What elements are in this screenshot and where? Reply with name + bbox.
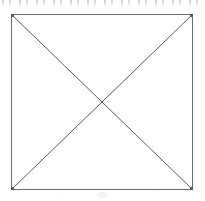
square-with-diagonals-diagram: Square with both diagonals Scanned black… [0,0,205,201]
corner-mark-top-left [11,14,14,17]
figure-canvas: Square with both diagonals Scanned black… [0,0,205,201]
corner-mark-bottom-left [11,187,14,190]
corner-mark-bottom-right [190,187,193,190]
corner-mark-top-right [190,14,193,17]
